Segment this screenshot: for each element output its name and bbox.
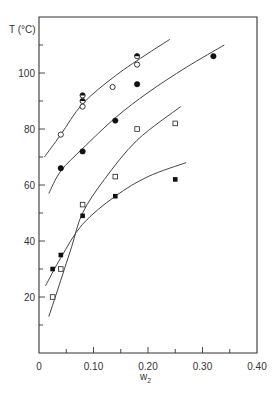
open-circle-marker — [110, 84, 115, 89]
y-axis-title: T (°C) — [9, 24, 36, 35]
data-markers — [50, 54, 216, 300]
fit-curve-3 — [49, 107, 181, 317]
filled-square-marker — [80, 214, 85, 219]
fit-curve-1 — [44, 39, 169, 157]
x-axis-title: w2 — [139, 371, 151, 384]
y-tick-label: 80 — [24, 124, 36, 135]
x-axis-title-sub: 2 — [147, 377, 151, 384]
filled-circle-marker — [80, 149, 85, 154]
filled-circle-marker — [134, 82, 139, 87]
filled-circle-marker — [58, 166, 63, 171]
plot-border — [39, 17, 257, 353]
y-tick-label: 100 — [18, 68, 35, 79]
open-circle-marker — [80, 104, 85, 109]
half-filled-circle-marker — [80, 98, 85, 103]
filled-circle-marker — [113, 118, 118, 123]
y-tick-label: 20 — [24, 292, 36, 303]
filled-circle-marker — [211, 54, 216, 59]
open-square-marker — [113, 174, 118, 179]
open-square-marker — [50, 295, 55, 300]
open-square-marker — [135, 127, 140, 132]
axis-ticks: 00.100.200.300.4020406080100 — [18, 45, 267, 372]
x-tick-label: 0.30 — [193, 361, 213, 372]
x-tick-label: 0.10 — [84, 361, 104, 372]
filled-square-marker — [113, 194, 118, 199]
y-tick-label: 60 — [24, 180, 36, 191]
filled-square-marker — [59, 253, 64, 258]
x-tick-label: 0.40 — [247, 361, 267, 372]
open-square-marker — [173, 121, 178, 126]
fit-curve-4 — [46, 163, 187, 286]
filled-square-marker — [173, 177, 178, 182]
plot-frame — [39, 17, 257, 353]
chart-canvas: 00.100.200.300.4020406080100 T (°C) w2 — [0, 0, 280, 405]
y-tick-label: 40 — [24, 236, 36, 247]
open-square-marker — [80, 202, 85, 207]
open-square-marker — [59, 267, 64, 272]
filled-square-marker — [50, 267, 55, 272]
open-circle-marker — [58, 132, 63, 137]
half-filled-circle-marker — [80, 93, 85, 98]
open-circle-marker — [135, 62, 140, 67]
fit-curves — [44, 39, 224, 316]
half-filled-circle-marker — [135, 54, 140, 59]
x-tick-label: 0 — [36, 361, 42, 372]
